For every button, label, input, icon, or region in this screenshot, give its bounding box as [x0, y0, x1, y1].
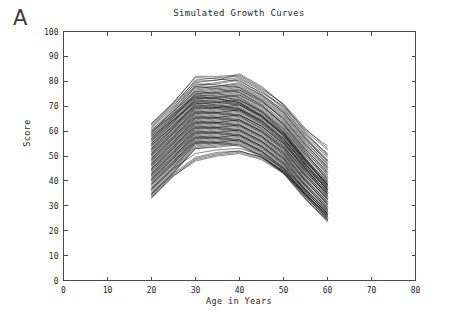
growth-curves-group — [152, 74, 328, 222]
x-tick-label: 40 — [235, 286, 245, 295]
tick-labels-group: 010203040506070800102030405060708090100 — [44, 28, 420, 295]
y-tick-label: 100 — [44, 28, 59, 37]
y-tick-label: 30 — [49, 202, 59, 211]
growth-curve — [152, 75, 328, 146]
x-tick-label: 70 — [367, 286, 377, 295]
y-tick-label: 20 — [49, 227, 59, 236]
y-tick-label: 0 — [54, 277, 59, 286]
tick-marks-group — [64, 32, 416, 281]
y-tick-label: 90 — [49, 52, 59, 61]
x-tick-label: 10 — [103, 286, 113, 295]
y-tick-label: 60 — [49, 127, 59, 136]
x-tick-label: 60 — [323, 286, 333, 295]
axes-group — [64, 32, 416, 281]
x-tick-label: 80 — [411, 286, 421, 295]
y-tick-label: 70 — [49, 102, 59, 111]
x-tick-label: 50 — [279, 286, 289, 295]
x-tick-label: 20 — [147, 286, 157, 295]
x-tick-label: 0 — [61, 286, 66, 295]
y-tick-label: 50 — [49, 152, 59, 161]
figure-panel: A Simulated Growth Curves Score Age in Y… — [0, 0, 451, 321]
plot-area: 010203040506070800102030405060708090100 — [0, 0, 451, 321]
y-tick-label: 10 — [49, 252, 59, 261]
y-tick-label: 40 — [49, 177, 59, 186]
x-tick-label: 30 — [191, 286, 201, 295]
axis-frame — [64, 32, 416, 281]
y-tick-label: 80 — [49, 77, 59, 86]
